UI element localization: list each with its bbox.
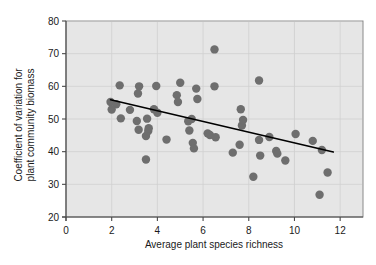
y-axis-title-line2: plant community biomass <box>25 69 36 182</box>
x-tick-label: 4 <box>155 225 161 236</box>
y-tick-label: 70 <box>48 48 60 59</box>
scatter-point <box>273 149 281 157</box>
scatter-point <box>185 126 193 134</box>
scatter-point <box>145 124 153 132</box>
scatter-point <box>323 168 331 176</box>
scatter-point <box>210 82 218 90</box>
y-tick-label: 80 <box>48 16 60 27</box>
scatter-point <box>152 82 160 90</box>
x-tick-label: 2 <box>109 225 115 236</box>
scatter-point <box>291 130 299 138</box>
chart-canvas: 024681012 20304050607080 Average plant s… <box>0 0 376 265</box>
scatter-point <box>315 191 323 199</box>
scatter-point <box>174 98 182 106</box>
scatter-point <box>134 126 142 134</box>
scatter-point <box>133 117 141 125</box>
scatter-point <box>193 95 201 103</box>
scatter-point <box>190 144 198 152</box>
scatter-point <box>281 156 289 164</box>
scatter-point <box>239 116 247 124</box>
scatter-point <box>135 82 143 90</box>
scatter-point <box>142 155 150 163</box>
scatter-point <box>143 114 151 122</box>
scatter-point <box>126 106 134 114</box>
y-axis-title-line1: Coefficient of variation for <box>13 68 24 182</box>
scatter-point <box>162 135 170 143</box>
x-tick-label: 10 <box>289 225 301 236</box>
y-tick-label: 30 <box>48 179 60 190</box>
x-axis-title: Average plant species richness <box>145 239 283 250</box>
scatter-point <box>249 173 257 181</box>
scatter-point <box>134 89 142 97</box>
scatter-point <box>176 79 184 87</box>
scatter-point <box>235 141 243 149</box>
x-tick-label: 8 <box>246 225 252 236</box>
scatter-point <box>211 133 219 141</box>
scatter-point <box>192 84 200 92</box>
x-tick-label: 0 <box>63 225 69 236</box>
scatter-point <box>255 76 263 84</box>
y-tick-label: 60 <box>48 81 60 92</box>
scatter-point <box>210 45 218 53</box>
scatter-plot-figure: 024681012 20304050607080 Average plant s… <box>0 0 376 265</box>
x-tick-label: 6 <box>200 225 206 236</box>
scatter-point <box>309 137 317 145</box>
scatter-point <box>107 105 115 113</box>
y-tick-label: 40 <box>48 146 60 157</box>
scatter-point <box>229 148 237 156</box>
y-tick-label: 20 <box>48 212 60 223</box>
x-tick-label: 12 <box>335 225 347 236</box>
y-tick-label: 50 <box>48 114 60 125</box>
scatter-point <box>256 151 264 159</box>
scatter-point <box>115 81 123 89</box>
scatter-point <box>255 136 263 144</box>
scatter-point <box>237 105 245 113</box>
scatter-point <box>117 114 125 122</box>
